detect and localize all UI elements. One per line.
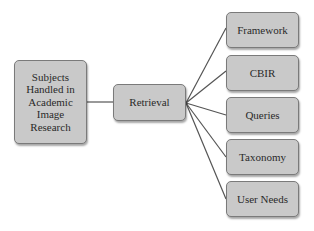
root-node: Subjects Handled in Academic Image Resea… (14, 60, 87, 144)
edge-retrieval-queries (186, 103, 226, 115)
edge-retrieval-framework (186, 28, 226, 103)
retrieval-label: Retrieval (129, 96, 169, 109)
root-line-5: Research (26, 121, 75, 134)
root-line-3: Academic (26, 96, 75, 109)
leaf-label: Queries (245, 109, 279, 122)
edge-retrieval-taxonomy (186, 103, 226, 157)
leaf-node-cbir: CBIR (226, 55, 299, 91)
root-line-4: Image (26, 108, 75, 121)
leaf-node-framework: Framework (226, 12, 299, 48)
leaf-label: User Needs (237, 193, 288, 206)
leaf-label: Framework (237, 24, 288, 37)
leaf-label: Taxonomy (239, 151, 286, 164)
retrieval-node: Retrieval (113, 84, 186, 121)
leaf-label: CBIR (250, 67, 276, 80)
leaf-node-user-needs: User Needs (226, 181, 299, 217)
edge-retrieval-cbir (186, 71, 226, 103)
edge-retrieval-user-needs (186, 103, 226, 199)
diagram-canvas: Subjects Handled in Academic Image Resea… (0, 0, 314, 231)
root-line-2: Handled in (26, 83, 75, 96)
leaf-node-taxonomy: Taxonomy (226, 139, 299, 175)
leaf-node-queries: Queries (226, 97, 299, 133)
root-line-1: Subjects (26, 71, 75, 84)
